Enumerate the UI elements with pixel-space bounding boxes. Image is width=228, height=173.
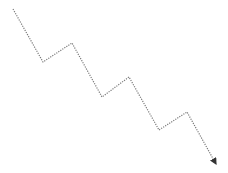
zigzag-dotted-line	[13, 9, 216, 164]
zigzag-arrow-diagram	[0, 0, 228, 173]
